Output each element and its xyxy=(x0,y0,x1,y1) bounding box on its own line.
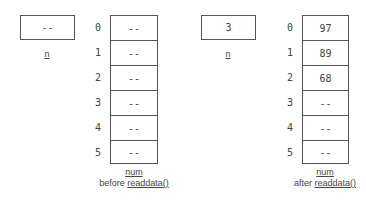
array-cell: 68 xyxy=(302,65,349,91)
array-index: 2 xyxy=(284,72,296,83)
caption-prefix: after xyxy=(294,178,315,188)
array-index: 0 xyxy=(284,22,296,33)
array-cell: -- xyxy=(302,115,349,141)
array-cell: 97 xyxy=(302,15,349,41)
array-cell: -- xyxy=(110,140,158,164)
after-n-label: n xyxy=(218,49,238,59)
array-index: 2 xyxy=(92,72,104,83)
array-index: 0 xyxy=(92,22,104,33)
array-cell: 89 xyxy=(302,40,349,66)
before-num-label: num xyxy=(114,167,154,177)
caption-function: readdata() xyxy=(127,178,169,188)
after-num-label: num xyxy=(305,167,345,177)
array-cell: -- xyxy=(302,140,349,164)
before-n-box: -- xyxy=(20,15,75,40)
after-caption: after readdata() xyxy=(285,178,365,188)
array-index: 3 xyxy=(92,97,104,108)
array-cell: -- xyxy=(110,65,158,91)
array-cell: -- xyxy=(302,90,349,116)
array-index: 3 xyxy=(284,97,296,108)
before-caption: before readdata() xyxy=(94,178,174,188)
caption-prefix: before xyxy=(99,178,127,188)
caption-function: readdata() xyxy=(314,178,356,188)
array-index: 5 xyxy=(284,147,296,158)
array-index: 5 xyxy=(92,147,104,158)
after-n-box: 3 xyxy=(201,15,256,40)
array-index: 4 xyxy=(284,122,296,133)
array-cell: -- xyxy=(110,15,158,41)
array-cell: -- xyxy=(110,90,158,116)
array-cell: -- xyxy=(110,40,158,66)
array-index: 4 xyxy=(92,122,104,133)
array-index: 1 xyxy=(284,47,296,58)
array-index: 1 xyxy=(92,47,104,58)
before-n-label: n xyxy=(37,49,57,59)
array-cell: -- xyxy=(110,115,158,141)
